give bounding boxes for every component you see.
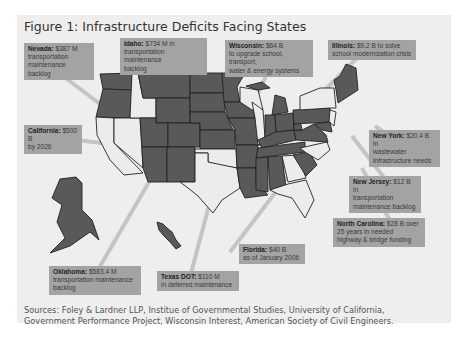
state-mississippi	[256, 157, 268, 192]
state-pennsylvania	[293, 108, 330, 124]
state-washington	[100, 73, 132, 90]
state-northdakota	[190, 73, 224, 93]
state-wyoming	[156, 98, 190, 123]
state-newengland	[334, 64, 358, 103]
state-arizona	[142, 147, 167, 182]
callout-newjersey: New Jersey: $12 B in transportationmaint…	[349, 176, 421, 213]
state-newyork	[300, 88, 336, 110]
state-southdakota	[190, 93, 225, 112]
callout-texas: Texas DOT: $110 M in deferred maintenanc…	[157, 271, 239, 291]
state-michigan	[272, 95, 288, 115]
state-newmexico	[167, 147, 195, 182]
callout-oklahoma: Oklahoma: $583.4 M transportation mainte…	[49, 266, 141, 295]
sources-line-1: Sources: Foley & Lardner LLP, Institue o…	[24, 305, 394, 316]
state-kansas	[200, 130, 235, 149]
callout-northcarolina: North Carolina: $28 B over 25 years in n…	[333, 218, 425, 247]
state-oregon	[96, 89, 132, 118]
state-montana	[138, 73, 190, 98]
callout-illinois: Illinois: $9.2 B to solve school moderni…	[328, 40, 416, 60]
callout-florida: Florida: $40 B as of January 2006	[239, 244, 305, 264]
state-colorado	[168, 123, 200, 147]
state-ohio	[275, 113, 294, 132]
state-arkansas	[236, 145, 258, 168]
state-alaska	[50, 177, 99, 253]
callout-idaho: Idaho: $734 M in transportation maintena…	[120, 38, 207, 75]
sources-line-2: Government Performance Project, Wisconsi…	[24, 316, 394, 327]
sources-note: Sources: Foley & Lardner LLP, Institue o…	[24, 305, 394, 327]
callout-nevada: Nevada: $387 M transportationmaintenance…	[24, 43, 94, 80]
callout-california: California: $500 B by 2026	[24, 125, 82, 154]
callout-wisconsin: Wisconsin: $64 B to upgrade school, tran…	[225, 40, 313, 77]
callout-newyork: New York: $20.4 B in wastewaterinfrastru…	[369, 130, 440, 167]
state-hawaii	[157, 222, 181, 249]
